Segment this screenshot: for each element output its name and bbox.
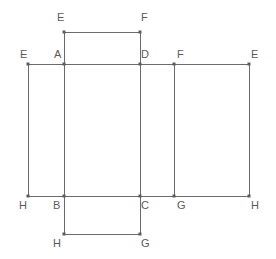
vertex-top-e bbox=[63, 31, 66, 34]
label-left-h: H bbox=[19, 200, 27, 211]
vertex-left-h bbox=[27, 195, 30, 198]
vertex-c bbox=[139, 195, 142, 198]
label-bottom-g: G bbox=[141, 238, 150, 249]
vertex-bottom-h bbox=[63, 233, 66, 236]
vertex-right-h bbox=[248, 195, 251, 198]
vertex-f-right bbox=[173, 63, 176, 66]
vertex-b bbox=[63, 195, 66, 198]
label-f-right: F bbox=[177, 49, 184, 60]
label-c: C bbox=[141, 200, 149, 211]
label-right-h: H bbox=[251, 200, 259, 211]
label-b: B bbox=[53, 200, 60, 211]
label-bottom-h: H bbox=[53, 238, 61, 249]
vertex-d bbox=[139, 63, 142, 66]
label-g-right: G bbox=[177, 200, 186, 211]
net-drawing-canvas bbox=[0, 0, 276, 259]
vertex-a bbox=[63, 63, 66, 66]
label-top-e: E bbox=[57, 12, 64, 23]
label-d: D bbox=[141, 49, 149, 60]
label-a: A bbox=[54, 49, 61, 60]
label-left-e: E bbox=[20, 49, 27, 60]
vertex-top-f bbox=[139, 31, 142, 34]
vertex-right-e bbox=[248, 63, 251, 66]
vertex-g-right bbox=[173, 195, 176, 198]
vertex-bottom-g bbox=[139, 233, 142, 236]
geometry-net-figure: EFEADFEHBCGHHG bbox=[0, 0, 276, 259]
net-edges-group bbox=[28, 32, 249, 234]
label-right-e: E bbox=[251, 49, 258, 60]
label-top-f: F bbox=[141, 12, 148, 23]
vertex-left-e bbox=[27, 63, 30, 66]
